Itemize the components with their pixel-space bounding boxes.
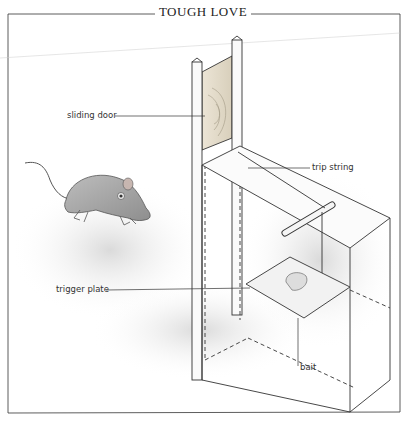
label-bait: bait: [300, 362, 316, 372]
label-trip-string: trip string: [312, 162, 354, 172]
figure-title-text: TOUGH LOVE: [155, 4, 251, 19]
label-sliding-door: sliding door: [67, 110, 117, 120]
figure-title: TOUGH LOVE: [0, 4, 406, 20]
label-trigger-plate: trigger plate: [56, 284, 109, 294]
diagram-canvas: [0, 0, 406, 425]
